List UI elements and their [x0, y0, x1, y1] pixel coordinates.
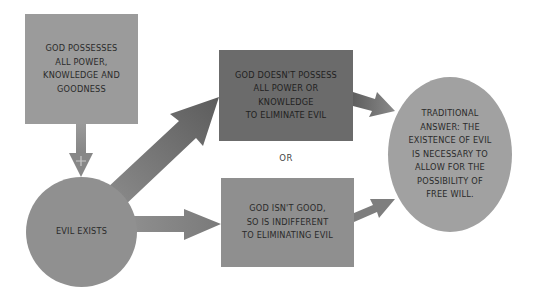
not-powerful-label: GOD DOESN'T POSSESS ALL POWER OR KNOWLED…: [235, 69, 337, 123]
or-connector: OR: [276, 153, 296, 163]
not-powerful-box: GOD DOESN'T POSSESS ALL POWER OR KNOWLED…: [219, 50, 353, 141]
arrow-not-powerful-to-answer: [353, 92, 395, 117]
premise-box: GOD POSSESSES ALL POWER, KNOWLEDGE AND G…: [25, 14, 138, 124]
evil-exists-label: EVIL EXISTS: [56, 225, 107, 239]
arrow-not-good-to-answer: [354, 199, 395, 222]
arrow-evil-to-not-good: [132, 209, 221, 240]
traditional-answer-ellipse: TRADITIONAL ANSWER: THE EXISTENCE OF EVI…: [388, 77, 512, 232]
not-good-label: GOD ISN'T GOOD, SO IS INDIFFERENT TO ELI…: [242, 202, 333, 243]
traditional-answer-label: TRADITIONAL ANSWER: THE EXISTENCE OF EVI…: [408, 107, 491, 202]
not-good-box: GOD ISN'T GOOD, SO IS INDIFFERENT TO ELI…: [221, 178, 354, 267]
evil-exists-circle: EVIL EXISTS: [26, 177, 137, 287]
premise-label: GOD POSSESSES ALL POWER, KNOWLEDGE AND G…: [43, 42, 120, 96]
arrow-premise-to-evil: [69, 124, 93, 177]
